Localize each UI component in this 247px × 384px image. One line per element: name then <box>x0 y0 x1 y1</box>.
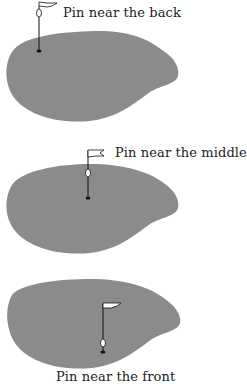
hole-icon <box>101 351 106 354</box>
flag-icon <box>88 150 104 157</box>
ball-icon <box>86 169 91 177</box>
panel-pin-back: Pin near the back <box>0 0 227 130</box>
putting-green <box>7 279 180 369</box>
label-pin-front: Pin near the front <box>56 369 175 384</box>
panel-pin-middle: Pin near the middle <box>0 130 227 260</box>
hole-icon <box>86 197 91 200</box>
panel-pin-front: Pin near the front <box>0 255 227 377</box>
green-diagram-front <box>0 255 227 377</box>
putting-green <box>6 31 178 122</box>
label-pin-back: Pin near the back <box>63 5 181 20</box>
putting-green <box>6 164 178 254</box>
ball-icon <box>37 9 42 17</box>
label-pin-middle: Pin near the middle <box>115 145 247 160</box>
flag-icon <box>39 2 57 7</box>
ball-icon <box>101 339 106 347</box>
hole-icon <box>37 50 42 53</box>
